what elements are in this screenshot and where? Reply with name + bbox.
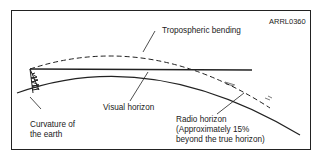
label-curvature: Curvature of the earth [30, 120, 75, 140]
label-radio-horizon: Radio horizon (Approximately 15% beyond … [176, 115, 265, 145]
curvature-line1: Curvature of [30, 120, 75, 130]
label-visual-horizon: Visual horizon [103, 103, 154, 113]
radio-line2: (Approximately 15% [176, 125, 265, 135]
curvature-line2: the earth [30, 130, 75, 140]
visual-horizon-line [30, 69, 252, 70]
label-tropospheric-bending: Tropospheric bending [162, 26, 241, 36]
figure-id-label: ARRL0360 [269, 17, 306, 26]
tropospheric-bending-path [30, 56, 270, 108]
leader-visual [130, 72, 148, 101]
leader-tropospheric [143, 31, 155, 52]
antenna-tower-icon [30, 69, 39, 93]
leader-curvature [30, 97, 41, 109]
radio-horizon-marks [225, 82, 272, 100]
radio-line1: Radio horizon [176, 115, 265, 125]
radio-line3: beyond the true horizon) [176, 135, 265, 145]
